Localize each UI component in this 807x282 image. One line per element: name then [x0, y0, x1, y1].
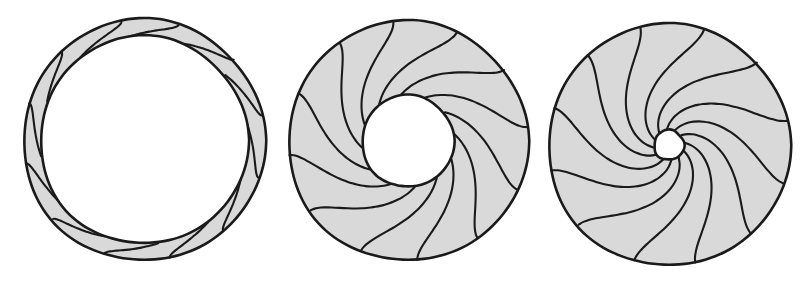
spiral-disc-figure-svg	[0, 0, 807, 282]
medium-hub-spiral-disc	[289, 20, 529, 260]
thin-annulus-disc	[24, 18, 266, 260]
shapes-root	[24, 18, 791, 265]
figure-panel	[0, 0, 807, 282]
small-hub-spiral-disc	[549, 23, 791, 265]
